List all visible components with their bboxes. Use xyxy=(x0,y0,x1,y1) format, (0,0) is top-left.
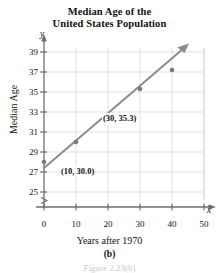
point-label-10-300: (10, 30.0) xyxy=(60,166,95,176)
trend-line xyxy=(44,44,189,169)
y-axis-line xyxy=(41,34,47,207)
data-point-40 xyxy=(170,68,175,73)
data-point-0 xyxy=(42,160,47,165)
x-axis-line xyxy=(36,204,216,210)
point-label-30-353: (30, 35.3) xyxy=(102,113,137,123)
data-point-30 xyxy=(138,87,143,92)
data-point-10 xyxy=(74,140,79,145)
